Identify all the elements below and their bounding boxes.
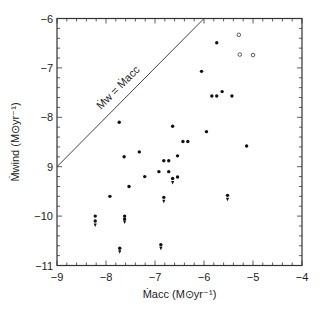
down-arrow-icon: [94, 223, 97, 227]
data-point: [118, 121, 121, 124]
axis-ticks: [57, 19, 302, 266]
upper-limit-point: [118, 247, 121, 250]
x-tick-label: −6: [198, 271, 211, 283]
data-point: [176, 154, 179, 157]
data-point: [171, 124, 174, 127]
down-arrow-icon: [118, 250, 121, 254]
x-tick-label: −7: [149, 271, 162, 283]
data-point: [215, 94, 218, 97]
upper-limit-point: [123, 217, 126, 220]
x-tick-label: −4: [296, 271, 309, 283]
x-tick-label: −8: [100, 271, 113, 283]
x-tick-label: −5: [247, 271, 260, 283]
data-point: [108, 195, 111, 198]
upper-limit-point: [162, 196, 165, 199]
data-point: [245, 144, 248, 147]
y-tick-label: −6: [40, 13, 53, 25]
y-tick-label: −8: [40, 111, 53, 123]
y-tick-label: −10: [34, 210, 53, 222]
down-arrow-icon: [226, 198, 229, 202]
data-point: [200, 70, 203, 73]
data-point: [215, 41, 218, 44]
down-arrow-icon: [159, 247, 162, 251]
data-point: [162, 159, 165, 162]
diagonal-line: [57, 19, 204, 167]
data-point: [176, 175, 179, 178]
y-axis-title: Ṁwind (M⊙yr⁻¹): [9, 102, 21, 181]
data-point: [122, 155, 125, 158]
x-tick-label: −9: [51, 271, 64, 283]
data-point: [167, 170, 170, 173]
data-point: [138, 150, 141, 153]
open-data-point: [238, 53, 242, 57]
upper-limit-point: [159, 243, 162, 246]
down-arrow-icon: [162, 200, 165, 204]
upper-limit-point: [123, 214, 126, 217]
diagonal-line-label: Ṁw = Ṁacc: [94, 63, 142, 112]
open-data-point: [237, 33, 241, 37]
data-point: [186, 140, 189, 143]
y-tick-label: −7: [40, 62, 53, 74]
plot-frame: [57, 19, 302, 266]
equality-line: Ṁw = Ṁacc: [57, 19, 204, 167]
x-tick-labels: −9−8−7−6−5−4: [51, 271, 309, 283]
y-tick-label: −11: [35, 260, 53, 272]
data-point: [181, 140, 184, 143]
upper-limit-point: [94, 214, 97, 217]
plot-border: [57, 19, 302, 266]
upper-limit-point: [226, 194, 229, 197]
upper-limit-point: [171, 177, 174, 180]
x-axis-title: Ṁacc (M⊙yr⁻¹): [143, 288, 217, 300]
data-point: [230, 94, 233, 97]
y-tick-labels: −6−7−89−10−11: [34, 13, 53, 272]
upper-limit-point: [94, 219, 97, 222]
data-point: [205, 130, 208, 133]
data-point: [143, 175, 146, 178]
down-arrow-icon: [171, 181, 174, 185]
open-data-point: [251, 53, 255, 57]
data-point: [167, 159, 170, 162]
data-points: [94, 33, 255, 254]
data-point: [210, 94, 213, 97]
data-point: [157, 170, 160, 173]
data-point: [220, 90, 223, 93]
down-arrow-icon: [123, 221, 126, 225]
y-tick-label: 9: [47, 161, 53, 173]
scatter-chart: −9−8−7−6−5−4 −6−7−89−10−11 Ṁw = Ṁacc Ṁac…: [0, 0, 320, 310]
data-point: [127, 185, 130, 188]
